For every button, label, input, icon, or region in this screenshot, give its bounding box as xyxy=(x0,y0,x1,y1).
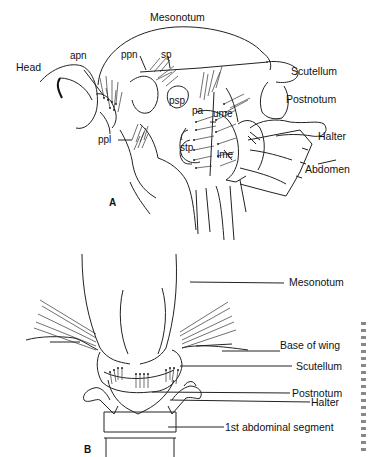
label-abdomen: Abdomen xyxy=(305,164,350,175)
label-sp: sp xyxy=(161,49,172,60)
label-mesonotum-b: Mesonotum xyxy=(289,277,344,288)
label-psp: psp xyxy=(169,95,185,106)
label-pa: pa xyxy=(192,105,203,116)
label-mesonotum-a: Mesonotum xyxy=(150,12,205,23)
label-head: Head xyxy=(16,62,41,73)
panel-label-b: B xyxy=(84,444,91,455)
label-postnotum-a: Postnotum xyxy=(286,94,336,105)
label-scutellum-a: Scutellum xyxy=(291,66,337,77)
label-ume: ume xyxy=(213,108,232,119)
figure: Mesonotum Head apn ppn sp Scutellum Post… xyxy=(0,0,368,457)
label-ppn: ppn xyxy=(121,49,138,60)
label-scutellum-b: Scutellum xyxy=(296,361,342,372)
label-stp: stp xyxy=(180,142,193,153)
label-halter-b: Halter xyxy=(311,397,339,408)
label-ppl: ppl xyxy=(98,134,111,145)
label-apn: apn xyxy=(70,50,87,61)
panel-label-a: A xyxy=(109,197,116,208)
label-lme: lme xyxy=(217,149,233,160)
label-halter-a: Halter xyxy=(318,131,346,142)
label-first-abdominal-segment: 1st abdominal segment xyxy=(225,422,334,433)
page-edge-text-fragment xyxy=(361,318,366,454)
label-base-of-wing: Base of wing xyxy=(280,340,340,351)
